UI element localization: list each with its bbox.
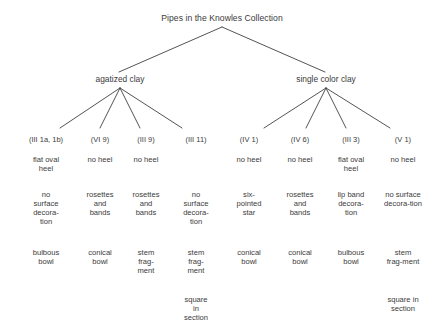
edge-agatized-to-col1 <box>60 88 120 128</box>
branch-node-agatized: agatized clay <box>60 75 180 85</box>
edge-root-to-single <box>222 27 325 72</box>
branch-node-single: single color clay <box>264 75 388 85</box>
edge-single-to-col7 <box>326 88 346 128</box>
diagram-title: Pipes in the Knowles Collection <box>0 13 444 23</box>
edge-agatized-to-col4 <box>120 88 182 128</box>
column-form: stem frag-ment <box>366 249 440 267</box>
edge-agatized-to-col2 <box>100 88 120 128</box>
form-line: frag-ment <box>366 258 440 267</box>
section-line: section <box>366 305 440 314</box>
heel-line: heel <box>14 165 78 174</box>
branch-node-single-label: single color clay <box>296 74 356 84</box>
code-label: (V 1) <box>370 136 436 145</box>
edge-single-to-col5 <box>264 88 326 128</box>
decoration-line: tion <box>14 218 78 227</box>
column-section: square in section <box>366 296 440 314</box>
decoration-line: tion <box>319 209 383 218</box>
heel-line: no heel <box>114 156 178 165</box>
edge-single-to-col6 <box>306 88 326 128</box>
column-heel: no heel <box>370 156 436 165</box>
decoration-line: decora-tion <box>366 200 440 209</box>
heel-line: no heel <box>370 156 436 165</box>
column-code: (V 1) <box>370 136 436 145</box>
decoration-line: tion <box>164 218 228 227</box>
form-line: ment <box>164 267 228 276</box>
tree-diagram: Pipes in the Knowles Collection agatized… <box>0 0 444 335</box>
column-section: square in section <box>164 296 228 323</box>
diagram-title-text: Pipes in the Knowles Collection <box>161 13 282 23</box>
column-heel: no heel <box>114 156 178 165</box>
edge-root-to-agatized <box>119 27 222 72</box>
edge-agatized-to-col3 <box>120 88 140 128</box>
edge-single-to-col8 <box>326 88 390 128</box>
column-decoration: no surface decora-tion <box>366 191 440 209</box>
branch-node-agatized-label: agatized clay <box>96 74 145 84</box>
heel-line: heel <box>319 165 383 174</box>
section-line: section <box>164 314 228 323</box>
